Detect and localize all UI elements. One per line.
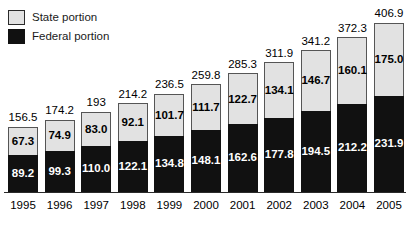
bar-2000: 259.8111.7148.1 (191, 84, 221, 192)
segment-state-value: 92.1 (122, 117, 144, 129)
segment-state-value: 160.1 (338, 65, 367, 77)
bar-1998: 214.292.1122.1 (118, 103, 148, 192)
bar-total-label: 236.5 (155, 79, 184, 91)
segment-state: 160.1 (337, 37, 367, 104)
bar-total-label: 156.5 (9, 112, 38, 124)
axis-tick-2004: 2004 (340, 200, 366, 212)
segment-state-value: 101.7 (155, 110, 184, 122)
axis-tick-2000: 2000 (193, 200, 219, 212)
bar-total-label: 214.2 (118, 89, 147, 101)
axis-tick-2005: 2005 (376, 200, 402, 212)
segment-state: 67.3 (8, 127, 38, 155)
segment-federal-value: 89.2 (12, 168, 34, 180)
stacked-bar-chart: State portion Federal portion 1995156.56… (0, 0, 410, 227)
segment-federal-value: 99.3 (48, 166, 70, 178)
axis-tick-2002: 2002 (266, 200, 292, 212)
segment-federal-value: 231.9 (375, 138, 404, 150)
axis-tick-2001: 2001 (230, 200, 256, 212)
segment-state: 175.0 (374, 23, 404, 96)
bar-total-label: 341.2 (301, 36, 330, 48)
segment-state-value: 146.7 (301, 75, 330, 87)
segment-state-value: 134.1 (265, 85, 294, 97)
segment-state-value: 122.7 (228, 94, 257, 106)
bar-1996: 174.274.999.3 (45, 120, 75, 192)
bar-total-label: 311.9 (265, 48, 293, 60)
segment-federal: 231.9 (374, 96, 404, 192)
segment-state: 146.7 (301, 50, 331, 111)
segment-federal-value: 177.8 (265, 149, 294, 161)
segment-federal: 134.8 (154, 136, 184, 192)
segment-federal-value: 110.0 (82, 163, 110, 175)
segment-state-value: 74.9 (48, 130, 70, 142)
bar-1999: 236.5101.7134.8 (154, 94, 184, 192)
segment-state: 74.9 (45, 120, 75, 151)
bar-2002: 311.9134.1177.8 (264, 62, 294, 192)
segment-federal: 162.6 (228, 124, 258, 192)
segment-state-value: 175.0 (375, 54, 404, 66)
bar-2005: 406.9175.0231.9 (374, 23, 404, 192)
segment-federal-value: 212.2 (338, 142, 367, 154)
segment-state-value: 83.0 (85, 124, 107, 136)
bar-total-label: 174.2 (45, 105, 74, 117)
segment-federal: 89.2 (8, 155, 38, 192)
segment-state: 83.0 (81, 112, 111, 146)
bar-2001: 285.3122.7162.6 (228, 73, 258, 192)
bar-total-label: 193 (87, 97, 106, 109)
segment-state: 101.7 (154, 94, 184, 136)
segment-federal: 177.8 (264, 118, 294, 192)
segment-federal: 99.3 (45, 151, 75, 192)
bar-total-label: 259.8 (192, 70, 221, 82)
bar-total-label: 372.3 (338, 23, 367, 35)
segment-state: 92.1 (118, 103, 148, 141)
segment-federal-value: 148.1 (192, 155, 221, 167)
segment-federal-value: 162.6 (228, 152, 257, 164)
bar-2003: 341.2146.7194.5 (301, 50, 331, 192)
axis-tick-1996: 1996 (47, 200, 73, 212)
segment-federal: 122.1 (118, 141, 148, 192)
segment-state: 134.1 (264, 62, 294, 118)
axis-tick-2003: 2003 (303, 200, 329, 212)
segment-federal-value: 122.1 (118, 161, 147, 173)
bar-1995: 156.567.389.2 (8, 127, 38, 192)
axis-tick-1999: 1999 (157, 200, 183, 212)
segment-federal: 212.2 (337, 104, 367, 192)
axis-baseline (4, 192, 406, 193)
bar-2004: 372.3160.1212.2 (337, 37, 367, 192)
segment-federal: 194.5 (301, 111, 331, 192)
segment-state: 111.7 (191, 84, 221, 130)
segment-federal: 110.0 (81, 146, 111, 192)
segment-state: 122.7 (228, 73, 258, 124)
bar-1997: 19383.0110.0 (81, 112, 111, 192)
segment-state-value: 67.3 (12, 136, 34, 148)
axis-tick-1995: 1995 (10, 200, 36, 212)
segment-federal-value: 134.8 (155, 158, 184, 170)
bar-total-label: 406.9 (375, 8, 404, 20)
axis-tick-1997: 1997 (83, 200, 109, 212)
bar-total-label: 285.3 (228, 59, 257, 71)
segment-state-value: 111.7 (192, 102, 220, 114)
axis-tick-1998: 1998 (120, 200, 146, 212)
segment-federal: 148.1 (191, 130, 221, 192)
segment-federal-value: 194.5 (301, 146, 330, 158)
